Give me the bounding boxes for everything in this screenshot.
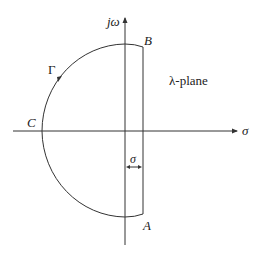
- jw-label: jω: [105, 14, 120, 29]
- point-c-label: C: [27, 115, 36, 130]
- gamma-label: Γ: [48, 62, 56, 77]
- offset-sigma-label: σ: [130, 152, 137, 166]
- point-a-label: A: [142, 218, 151, 233]
- sigma-axis-label: σ: [242, 123, 249, 138]
- offset-arrowhead-right-icon: [138, 165, 142, 169]
- plane-label: λ-plane: [169, 73, 208, 88]
- contour-diagram: jω B λ-plane Γ C σ σ A: [0, 0, 261, 255]
- point-b-label: B: [144, 33, 152, 48]
